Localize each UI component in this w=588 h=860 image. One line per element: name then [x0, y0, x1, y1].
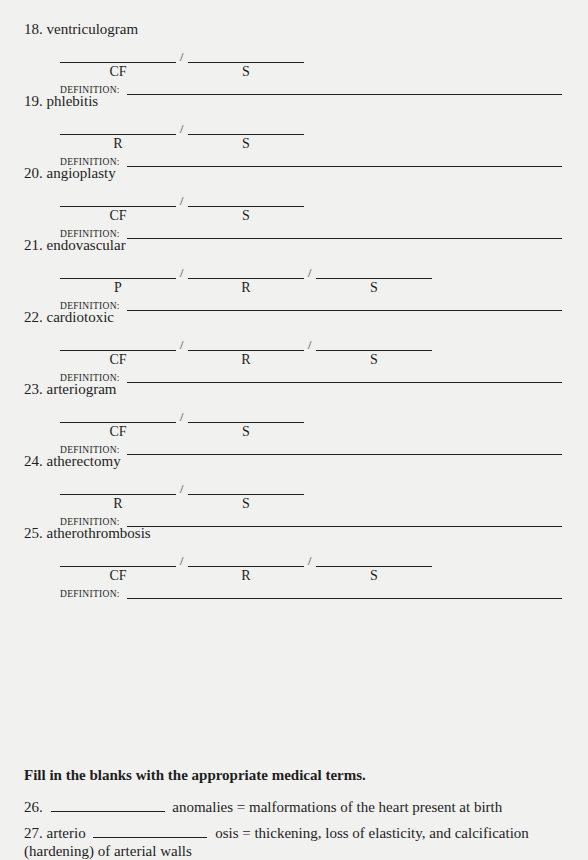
blank-1[interactable]	[60, 62, 176, 63]
definition-blank[interactable]	[127, 598, 562, 599]
blank-3[interactable]	[316, 278, 432, 279]
blank-1[interactable]	[60, 134, 176, 135]
fill-prefix: arterio	[47, 825, 86, 841]
separator: /	[308, 338, 311, 352]
part-label: CF	[60, 64, 176, 80]
part-label: CF	[60, 352, 176, 368]
part-label: P	[60, 280, 176, 296]
blank-2[interactable]	[188, 206, 304, 207]
item-title: 18. ventriculogram	[24, 20, 138, 38]
blank-2[interactable]	[188, 134, 304, 135]
exercise-item-23: 23. arteriogram / CF S DEFINITION:	[0, 380, 588, 452]
exercise-item-25: 25. atherothrombosis / / CF R S DEFINITI…	[0, 524, 588, 596]
blank-2[interactable]	[188, 350, 304, 351]
separator: /	[180, 410, 183, 424]
exercise-item-19: 19. phlebitis / R S DEFINITION:	[0, 92, 588, 164]
separator: /	[180, 338, 183, 352]
item-title: 24. atherectomy	[24, 452, 121, 470]
blank-1[interactable]	[60, 422, 176, 423]
exercise-item-20: 20. angioplasty / CF S DEFINITION:	[0, 164, 588, 236]
section-instructions: Fill in the blanks with the appropriate …	[24, 766, 366, 784]
item-title: 20. angioplasty	[24, 164, 116, 182]
part-label: R	[60, 136, 176, 152]
blank-3[interactable]	[316, 350, 432, 351]
blank-1[interactable]	[60, 566, 176, 567]
exercise-item-22: 22. cardiotoxic / / CF R S DEFINITION:	[0, 308, 588, 380]
blank-1[interactable]	[60, 206, 176, 207]
exercise-item-24: 24. atherectomy / R S DEFINITION:	[0, 452, 588, 524]
part-label: S	[316, 280, 432, 296]
part-label: CF	[60, 424, 176, 440]
item-title: 25. atherothrombosis	[24, 524, 151, 542]
fill-blank[interactable]	[93, 824, 207, 838]
separator: /	[308, 554, 311, 568]
item-number: 26.	[24, 799, 43, 815]
separator: /	[180, 266, 183, 280]
blank-2[interactable]	[188, 278, 304, 279]
separator: /	[180, 50, 183, 64]
part-label: S	[188, 136, 304, 152]
separator: /	[308, 266, 311, 280]
blank-2[interactable]	[188, 566, 304, 567]
item-title: 21. endovascular	[24, 236, 126, 254]
blank-1[interactable]	[60, 278, 176, 279]
separator: /	[180, 482, 183, 496]
fill-text: anomalies = malformations of the heart p…	[172, 799, 502, 815]
part-label: CF	[60, 568, 176, 584]
fill-blank[interactable]	[51, 798, 165, 812]
item-title: 19. phlebitis	[24, 92, 98, 110]
blank-3[interactable]	[316, 566, 432, 567]
part-label: S	[316, 352, 432, 368]
blank-1[interactable]	[60, 494, 176, 495]
item-title: 22. cardiotoxic	[24, 308, 114, 326]
part-label: S	[188, 208, 304, 224]
fill-in-item-27: 27. arterio osis = thickening, loss of e…	[24, 824, 564, 860]
item-title: 23. arteriogram	[24, 380, 116, 398]
part-label: CF	[60, 208, 176, 224]
blank-2[interactable]	[188, 422, 304, 423]
part-label: R	[60, 496, 176, 512]
exercise-item-18: 18. ventriculogram / CF S DEFINITION:	[0, 20, 588, 92]
separator: /	[180, 122, 183, 136]
part-label: R	[188, 352, 304, 368]
part-label: R	[188, 280, 304, 296]
item-number: 27.	[24, 825, 43, 841]
blank-1[interactable]	[60, 350, 176, 351]
part-label: S	[316, 568, 432, 584]
part-label: S	[188, 64, 304, 80]
definition-label: DEFINITION:	[60, 588, 120, 600]
blank-2[interactable]	[188, 62, 304, 63]
part-label: S	[188, 424, 304, 440]
separator: /	[180, 554, 183, 568]
fill-in-item-26: 26. anomalies = malformations of the hea…	[24, 798, 564, 816]
part-label: S	[188, 496, 304, 512]
separator: /	[180, 194, 183, 208]
part-label: R	[188, 568, 304, 584]
exercise-item-21: 21. endovascular / / P R S DEFINITION:	[0, 236, 588, 308]
blank-2[interactable]	[188, 494, 304, 495]
